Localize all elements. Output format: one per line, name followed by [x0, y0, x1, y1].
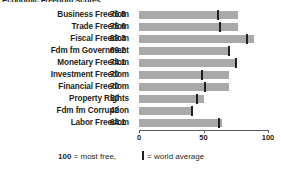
chart-row: Investment Freedom70 [0, 69, 281, 81]
chart-row: Financial Freedom70 [0, 81, 281, 93]
row-value-label: 89.3 [110, 34, 136, 43]
world-average-marker [217, 10, 219, 20]
axis-tick-label: 100 [262, 133, 275, 142]
world-average-marker [228, 46, 230, 56]
axis-tick-label: 0 [137, 133, 141, 142]
bar-fill [139, 71, 229, 79]
bar-fill [139, 35, 254, 43]
bar-track [139, 83, 268, 91]
chart-row: Fdm fm Government69.2 [0, 45, 281, 57]
world-average-marker [219, 22, 221, 32]
bar-fill [139, 59, 235, 67]
chart-row: Trade Freedom76.6 [0, 21, 281, 33]
chart-row: Labor Freedom64.1 [0, 117, 281, 129]
axis-tick-label: 50 [199, 133, 207, 142]
x-axis: 050100 [139, 130, 268, 131]
legend-most-free-number: 100 [58, 152, 71, 161]
world-average-marker [218, 118, 220, 128]
row-value-label: 76.8 [110, 10, 136, 19]
bar-fill [139, 47, 228, 55]
world-average-marker [201, 70, 203, 80]
chart-row: Monetary Freedom74.1 [0, 57, 281, 69]
bar-fill [139, 11, 238, 19]
bar-fill [139, 107, 193, 115]
bar-track [139, 59, 268, 67]
bar-track [139, 119, 268, 127]
world-average-marker-icon [142, 151, 144, 160]
legend-most-free-text: = most free, [74, 152, 116, 161]
world-average-marker [191, 106, 193, 116]
chart-row: Business Freedom76.8 [0, 9, 281, 21]
world-average-marker [196, 94, 198, 104]
row-value-label: 76.6 [110, 22, 136, 31]
bar-track [139, 23, 268, 31]
row-value-label: 64.1 [110, 118, 136, 127]
bar-track [139, 35, 268, 43]
bar-track [139, 71, 268, 79]
bar-track [139, 11, 268, 19]
world-average-marker [246, 34, 248, 44]
legend-most-free: 100 = most free, [58, 152, 116, 161]
chart-row: Property Rights50 [0, 93, 281, 105]
chart-row: Fdm fm Corruption42 [0, 105, 281, 117]
bar-track [139, 95, 268, 103]
chart-legend: 100 = most free,= world average [58, 151, 204, 161]
row-value-label: 70 [110, 70, 136, 79]
world-average-marker [235, 58, 237, 68]
page-title: Economic Freedom Scores [2, 0, 101, 2]
bar-track [139, 47, 268, 55]
legend-world-average-text: = world average [147, 152, 204, 161]
row-value-label: 69.2 [110, 46, 136, 55]
chart-rows: Business Freedom76.8Trade Freedom76.6Fis… [0, 9, 281, 129]
world-average-marker [204, 82, 206, 92]
row-value-label: 74.1 [110, 58, 136, 67]
row-value-label: 70 [110, 82, 136, 91]
chart-row: Fiscal Freedom89.3 [0, 33, 281, 45]
bar-fill [139, 119, 222, 127]
economic-freedom-bar-chart: Economic Freedom Scores Business Freedom… [0, 0, 281, 174]
bar-fill [139, 83, 229, 91]
row-value-label: 42 [110, 106, 136, 115]
bar-track [139, 107, 268, 115]
bar-fill [139, 23, 238, 31]
bar-fill [139, 95, 204, 103]
row-value-label: 50 [110, 94, 136, 103]
